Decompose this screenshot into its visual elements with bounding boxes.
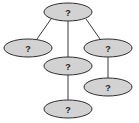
node-middle: ? — [44, 57, 92, 75]
tree-diagram: ? ? ? ? ? ? — [0, 0, 139, 123]
node-label: ? — [25, 44, 31, 54]
edge-root-left — [37, 19, 51, 39]
edge-root-right — [86, 19, 100, 39]
node-label: ? — [105, 44, 111, 54]
node-root: ? — [44, 3, 92, 21]
node-label: ? — [65, 105, 71, 115]
node-label: ? — [65, 62, 71, 72]
node-middle-child: ? — [44, 100, 92, 118]
node-right-child: ? — [84, 78, 132, 96]
node-right: ? — [84, 39, 132, 57]
node-label: ? — [65, 8, 71, 18]
node-left: ? — [4, 39, 52, 57]
node-label: ? — [105, 83, 111, 93]
